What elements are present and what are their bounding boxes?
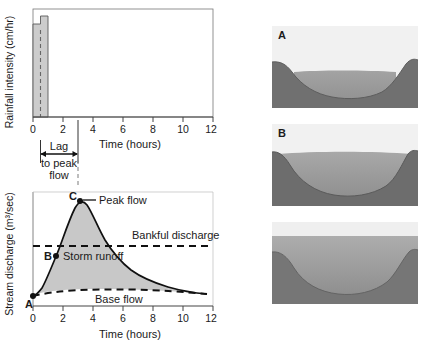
hyetograph-x-ticks	[33, 117, 213, 122]
hyetograph-y-axis-label: Rainfall intensity (cm/hr)	[3, 16, 15, 129]
hydrograph-xtick-10: 10	[177, 312, 189, 324]
photo-panel-a: A	[272, 26, 418, 108]
hyetograph-xtick-8: 8	[150, 123, 156, 135]
hyetograph-plot-frame	[33, 9, 213, 117]
point-b-label: B	[44, 250, 52, 262]
photo-panel-b: B	[272, 124, 418, 206]
hydrograph-xtick-2: 2	[60, 312, 66, 324]
hyetograph-xtick-10: 10	[177, 123, 189, 135]
hydrograph-xtick-0: 0	[30, 312, 36, 324]
point-c-marker	[77, 198, 83, 204]
hydrograph-xtick-8: 8	[150, 312, 156, 324]
hyetograph-xtick-0: 0	[30, 123, 36, 135]
photo-panel-a-graphic	[272, 26, 418, 108]
hyetograph-xtick-12: 12	[205, 123, 217, 135]
hyetograph-xtick-4: 4	[90, 123, 96, 135]
point-c-label: C	[69, 190, 77, 202]
point-a-label: A	[25, 298, 33, 310]
hyetograph-xtick-2: 2	[60, 123, 66, 135]
hyetograph-xtick-6: 6	[120, 123, 126, 135]
photo-panel-b-label: B	[278, 127, 286, 139]
point-b-marker	[53, 253, 59, 259]
photo-panel-c: C	[272, 222, 418, 304]
hydrograph-xtick-6: 6	[120, 312, 126, 324]
bankful-discharge-label: Bankful discharge	[132, 229, 219, 241]
hyetograph-x-axis-label: Time (hours)	[99, 138, 161, 150]
hydrograph-xtick-4: 4	[90, 312, 96, 324]
hydrograph-xtick-12: 12	[205, 312, 217, 324]
photo-panel-c-graphic	[272, 222, 418, 304]
figure-root: Rainfall intensity (cm/hr) 0 2 4 6 8 10 …	[0, 0, 424, 346]
lag-label: Lag	[50, 140, 68, 152]
hydrograph-x-axis-label: Time (hours)	[99, 328, 161, 340]
photo-panel-a-label: A	[278, 29, 286, 41]
storm-runoff-label: Storm runoff	[63, 250, 124, 262]
hyetograph-chart: Rainfall intensity (cm/hr) 0 2 4 6 8 10 …	[0, 0, 240, 180]
base-flow-label: Base flow	[95, 293, 143, 305]
photo-panel-b-graphic	[272, 124, 418, 206]
hydrograph-chart: Stream discharge (m³/sec) Bankful discha…	[0, 184, 240, 346]
hydrograph-x-ticks	[33, 306, 213, 311]
hydrograph-y-axis-label: Stream discharge (m³/sec)	[3, 192, 15, 316]
peak-flow-label: Peak flow	[99, 194, 147, 206]
